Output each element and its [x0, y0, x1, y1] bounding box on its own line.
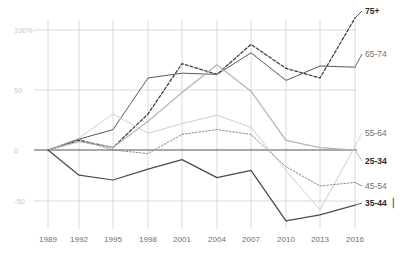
- series-label-55-64[interactable]: 55-64: [365, 128, 387, 138]
- x-axis-tick-label: 1995: [104, 235, 122, 244]
- x-axis-labels: 1989199219951998200120042007201020132016: [39, 235, 364, 244]
- x-axis-tick-label: 2007: [242, 235, 260, 244]
- series-label-45-54[interactable]: 45-54: [365, 181, 387, 191]
- line-chart: 100%500-50 19891992199519982001200420072…: [0, 0, 403, 262]
- series-label-75plus[interactable]: 75+: [365, 6, 379, 16]
- x-axis-tick-label: 1998: [139, 235, 157, 244]
- x-axis-tick-label: 1989: [39, 235, 57, 244]
- series-label-35-44[interactable]: 35-44: [365, 198, 387, 208]
- series-label-25-34[interactable]: 25-34: [365, 156, 387, 166]
- series-line-75plus: [48, 18, 355, 150]
- series-line-25-34: [48, 65, 355, 150]
- series-label-leader: [355, 203, 362, 205]
- x-axis-tick-label: 2001: [173, 235, 191, 244]
- data-series-group: [48, 18, 355, 221]
- series-label-65-74[interactable]: 65-74: [365, 49, 387, 59]
- chart-canvas: 100%500-50 19891992199519982001200420072…: [0, 0, 403, 262]
- series-label-leader: [355, 182, 362, 186]
- series-line-55-64: [48, 114, 355, 210]
- series-label-leader: [355, 133, 362, 146]
- vertical-gridlines: [48, 20, 355, 225]
- x-tick-marks: [48, 225, 355, 229]
- series-line-65-74: [48, 53, 355, 150]
- x-axis-tick-label: 2013: [311, 235, 329, 244]
- y-axis-tick-label: 0: [14, 146, 18, 155]
- y-axis-tick-label: 50: [14, 86, 22, 95]
- text-cursor: ▏: [392, 197, 400, 209]
- x-axis-tick-label: 2010: [277, 235, 295, 244]
- series-label-leader: [355, 11, 362, 18]
- y-axis-tick-label: 100%: [14, 26, 34, 35]
- x-axis-tick-label: 1992: [70, 235, 88, 244]
- y-axis-labels: 100%500-50: [14, 26, 34, 206]
- series-line-35-44: [48, 150, 355, 221]
- series-label-leader: [355, 54, 362, 67]
- series-label-leader: [355, 150, 362, 161]
- series-labels-group: 75+65-7455-6425-3445-5435-44▏: [355, 6, 400, 209]
- x-axis-tick-label: 2004: [208, 235, 226, 244]
- x-axis-tick-label: 2016: [346, 235, 364, 244]
- y-axis-tick-label: -50: [14, 197, 25, 206]
